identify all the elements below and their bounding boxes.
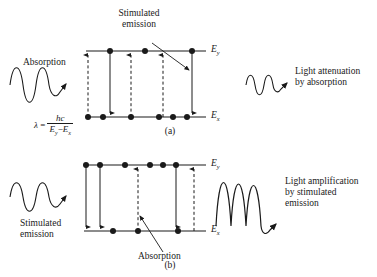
attenuation-line-1: Light attenuation [295, 66, 360, 77]
callout-line-absorption-b [140, 216, 163, 252]
energy-subscript: y [217, 163, 220, 170]
panel-caption-b: (b) [150, 260, 190, 270]
panel-stimulated-emission: Stimulated emission Absorption Light amp… [0, 140, 377, 277]
amplification-line-1: Light amplification [285, 176, 359, 187]
energy-label-upper-a: Ey [211, 44, 220, 58]
energy-subscript: x [217, 115, 220, 122]
label-stimulated-emission-callout-a: Stimulated emission [97, 8, 181, 30]
electron-upper-a [142, 48, 148, 54]
label-light-amplification-b: Light amplification by stimulated emissi… [285, 176, 359, 209]
electron-lower-a [128, 114, 134, 120]
stim-line-1: Stimulated [20, 218, 61, 229]
electron-lower-b [110, 228, 116, 234]
formula-equals: = [40, 120, 45, 130]
label-stimulated-emission-b: Stimulated emission [20, 218, 61, 240]
energy-label-upper-b: Ey [211, 158, 220, 172]
amplification-line-2: by stimulated [285, 187, 359, 198]
denominator-e2-sub: x [68, 130, 71, 136]
electron-lower-a [85, 114, 91, 120]
electron-lower-b [135, 228, 141, 234]
energy-label-lower-a: Ex [211, 110, 220, 124]
electron-upper-a [107, 48, 113, 54]
electron-upper-b [160, 162, 166, 168]
electron-upper-a [189, 48, 195, 54]
formula-denominator: Ey−Ex [47, 124, 73, 139]
output-wave-b [216, 183, 276, 234]
input-wave-b [10, 183, 66, 212]
energy-subscript: x [217, 229, 220, 236]
electron-lower-a [156, 114, 162, 120]
attenuation-line-2: by absorption [295, 77, 360, 88]
electron-lower-a [100, 114, 106, 120]
callout-line-stimulated-emission-a [152, 43, 189, 70]
electron-upper-b [122, 162, 128, 168]
amplification-line-3: emission [285, 198, 359, 209]
energy-subscript: y [217, 49, 220, 56]
electron-lower-a [170, 114, 176, 120]
callout-line-1: Stimulated [97, 8, 181, 19]
formula-lambda: λ [34, 120, 38, 130]
label-light-attenuation-a: Light attenuation by absorption [295, 66, 360, 88]
electron-upper-b [147, 162, 153, 168]
input-wave-a [10, 68, 66, 103]
stim-line-2: emission [20, 229, 61, 240]
output-wave-a [246, 75, 287, 95]
panel-absorption: Absorption Stimulated emission Light att… [0, 0, 377, 140]
energy-label-lower-b: Ex [211, 224, 220, 238]
formula-fraction: hc Ey−Ex [47, 113, 73, 139]
panel-caption-a: (a) [150, 126, 190, 136]
electron-lower-a [184, 114, 190, 120]
electron-upper-b [83, 162, 89, 168]
wavelength-formula: λ = hc Ey−Ex [34, 113, 73, 139]
label-absorption-a: Absorption [23, 57, 66, 68]
electron-upper-b [97, 162, 103, 168]
callout-line-2: emission [97, 19, 181, 30]
electron-upper-b [173, 162, 179, 168]
electron-lower-b [175, 228, 181, 234]
formula-numerator: hc [47, 113, 73, 124]
